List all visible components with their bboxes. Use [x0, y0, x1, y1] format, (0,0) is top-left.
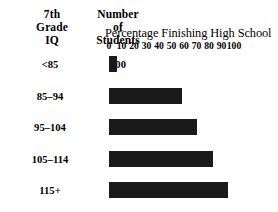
- x-axis-tick-50: 50: [167, 40, 177, 52]
- chart-row: 115+400: [0, 180, 278, 212]
- bar-track: [109, 182, 234, 201]
- row-label-iq: 105–114: [10, 153, 90, 166]
- x-axis-tick-labels: 0102030405060708090100: [100, 40, 278, 53]
- bar-track: [109, 151, 234, 170]
- chart-row: <85400: [0, 54, 278, 86]
- column-header-iq: 7th Grade IQ: [14, 8, 90, 48]
- bar-track: [109, 119, 234, 138]
- row-label-iq: 115+: [10, 184, 90, 197]
- row-label-iq: 95–104: [10, 121, 90, 134]
- chart-row: 95–104650: [0, 117, 278, 149]
- x-axis-tick-0: 0: [107, 40, 112, 52]
- bar: [109, 88, 182, 104]
- x-axis-tick-20: 20: [129, 40, 139, 52]
- x-axis-tick-90: 90: [217, 40, 227, 52]
- bar: [109, 56, 117, 72]
- row-label-iq: 85–94: [10, 90, 90, 103]
- column-header-iq-line-1: 7th: [14, 8, 90, 21]
- bar-track: [109, 56, 234, 75]
- x-axis-tick-100: 100: [227, 40, 241, 52]
- bar: [109, 119, 197, 135]
- x-axis-tick-70: 70: [192, 40, 202, 52]
- chart-row: 105–114575: [0, 149, 278, 181]
- column-header-iq-line-2: Grade: [14, 21, 90, 34]
- x-axis-tick-60: 60: [179, 40, 189, 52]
- x-axis-tick-80: 80: [204, 40, 214, 52]
- x-axis-tick-30: 30: [142, 40, 152, 52]
- chart-row: 85–94575: [0, 86, 278, 118]
- chart-title: Percentage Finishing High School: [105, 26, 278, 40]
- x-axis-tick-10: 10: [117, 40, 127, 52]
- column-header-students-line-1: Number: [84, 8, 152, 21]
- bar: [109, 182, 228, 198]
- bar-track: [109, 88, 234, 107]
- chart-rows: <8540085–9457595–104650105–114575115+400: [0, 54, 278, 212]
- bar: [109, 151, 213, 167]
- x-axis-tick-40: 40: [154, 40, 164, 52]
- column-header-iq-line-3: IQ: [14, 34, 90, 47]
- row-label-iq: <85: [10, 58, 90, 71]
- iq-high-school-bar-chart: 7th Grade IQ Number of Students Percenta…: [0, 0, 278, 212]
